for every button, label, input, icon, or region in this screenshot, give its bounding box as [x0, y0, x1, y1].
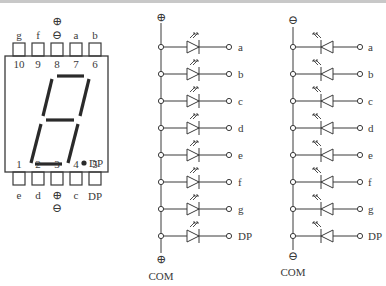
top-pin-num-7: 7 [73, 58, 79, 70]
top-pin-seg-g: g [16, 29, 22, 41]
anode-output-dp: DP [238, 230, 252, 242]
display-body [5, 56, 108, 172]
anode-output-d: d [238, 122, 244, 134]
cathode-top-minus-symbol: ⊖ [288, 13, 298, 27]
anode-output-c: c [238, 95, 243, 107]
cathode-row-dp [290, 222, 362, 243]
cathode-output-d: d [368, 122, 374, 134]
common-cathode-circuit: ⊖ ⊖ COM [280, 13, 362, 278]
cathode-output-b: b [368, 68, 374, 80]
anode-output-f: f [238, 176, 242, 188]
anode-row-f [158, 168, 231, 189]
cathode-output-labels: a b c d e f g DP [368, 41, 382, 242]
anode-row-d [158, 114, 231, 135]
anode-row-a [158, 33, 231, 54]
bottom-pin-num-2: 2 [35, 158, 41, 170]
cathode-row-c [290, 87, 362, 108]
anode-top-plus-symbol: ⊕ [156, 10, 166, 24]
bottom-pins [13, 172, 101, 185]
anode-com-label: COM [148, 270, 173, 282]
top-pin-num-8: 8 [54, 58, 60, 70]
cathode-output-e: e [368, 149, 373, 161]
anode-row-g [158, 195, 231, 216]
cathode-row-e [290, 141, 362, 162]
cathode-output-g: g [368, 203, 374, 215]
top-pin-num-6: 6 [92, 58, 98, 70]
segment-f [43, 79, 52, 116]
bottom-pin-num-1-inside: 1 [16, 158, 22, 170]
cathode-output-f: f [368, 176, 372, 188]
cathode-row-a [290, 33, 362, 54]
cathode-row-g [290, 195, 362, 216]
top-pin-seg-minus: ⊖ [52, 28, 62, 42]
anode-output-e: e [238, 149, 243, 161]
decimal-point-dot [81, 160, 86, 165]
cathode-output-dp: DP [368, 230, 382, 242]
top-pin-seg-f: f [36, 29, 40, 41]
top-pin-num-10: 10 [14, 58, 26, 70]
cathode-row-d [290, 114, 362, 135]
top-pin-seg-b: b [92, 29, 98, 41]
top-pin-num-9: 9 [35, 58, 41, 70]
bottom-pin-seg-c: c [74, 189, 79, 201]
cathode-row-f [290, 168, 362, 189]
cathode-com-label: COM [280, 266, 305, 278]
cathode-row-b [290, 60, 362, 81]
anode-row-c [158, 87, 231, 108]
anode-row-e [158, 141, 231, 162]
anode-row-b [158, 60, 231, 81]
bottom-pin-num-3: 3 [54, 158, 60, 170]
bottom-pin-num-4: 4 [73, 158, 79, 170]
seven-segment-diagram: g f ⊖ ⊕ a b 10 9 8 7 6 DP 1 1 2 3 4 5 e … [0, 0, 386, 286]
bottom-pin-num-5: 5 [92, 158, 98, 170]
cathode-bottom-minus-symbol: ⊖ [288, 249, 298, 263]
digit-segments [31, 76, 89, 164]
bottom-pin-seg-e: e [17, 189, 22, 201]
anode-row-dp [158, 222, 231, 243]
anode-output-a: a [238, 41, 243, 53]
anode-output-b: b [238, 68, 244, 80]
common-anode-circuit: ⊕ ⊕ COM [148, 10, 231, 282]
anode-bottom-plus-symbol: ⊕ [156, 252, 166, 266]
top-pin-seg-plus: ⊕ [52, 14, 62, 28]
top-pins [13, 43, 101, 56]
truncated-top-text [0, 0, 386, 3]
bottom-pin-seg-dp: DP [88, 190, 102, 202]
anode-output-g: g [238, 203, 244, 215]
bottom-pin-seg-minus: ⊖ [52, 201, 62, 215]
bottom-pin-seg-plus: ⊕ [52, 188, 62, 202]
segment-b [80, 79, 89, 116]
cathode-output-c: c [368, 95, 373, 107]
bottom-pin-seg-d: d [35, 189, 41, 201]
cathode-output-a: a [368, 41, 373, 53]
top-pin-seg-a: a [74, 29, 79, 41]
anode-output-labels: a b c d e f g DP [238, 41, 252, 242]
